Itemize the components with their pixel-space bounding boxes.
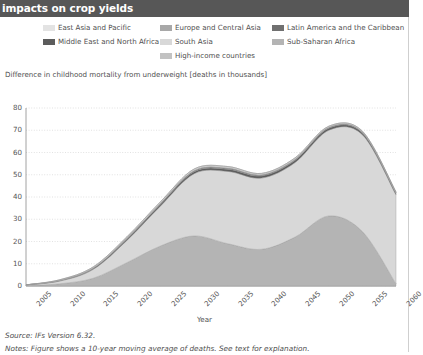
y-tick-80: 80 [2,104,22,111]
window-title-bar: impacts on crop yields [0,0,409,17]
explanatory-note: Notes: Figure shows a 10-year moving ave… [5,342,405,355]
y-tick-60: 60 [2,149,22,156]
y-tick-40: 40 [2,193,22,200]
stacked-area-chart [0,17,409,317]
source-note: Source: IFs Version 6.32. [5,329,405,342]
y-tick-70: 70 [2,126,22,133]
figure-footer: Source: IFs Version 6.32. Notes: Figure … [5,329,405,355]
page-title: impacts on crop yields [2,2,133,14]
y-tick-30: 30 [2,215,22,222]
plot-area: 01020304050607080 2005201020152020202520… [0,17,409,317]
figure-container: East Asia and Pacific Middle East and No… [0,17,409,352]
y-tick-50: 50 [2,171,22,178]
x-axis-title: Year [0,315,409,324]
y-tick-20: 20 [2,238,22,245]
y-tick-10: 10 [2,260,22,267]
y-tick-0: 0 [2,282,22,289]
